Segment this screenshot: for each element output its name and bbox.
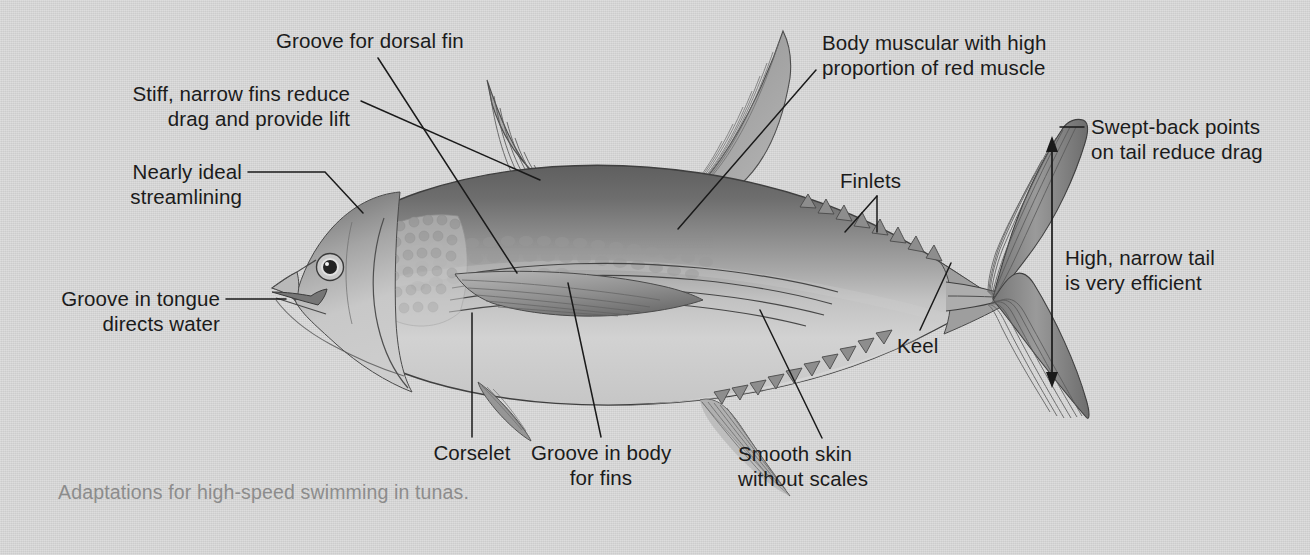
label-smooth-skin-line1: Smooth skin [738, 441, 852, 466]
label-streamlining-line1: Nearly ideal [20, 159, 242, 184]
fish-body [272, 31, 1089, 496]
head [272, 192, 412, 392]
label-finlets: Finlets [840, 168, 901, 193]
label-swept-back-line1: Swept-back points [1091, 114, 1260, 139]
leader-streamlining [248, 172, 363, 213]
label-swept-back-line2: on tail reduce drag [1091, 139, 1263, 164]
label-groove-tongue-line1: Groove in tongue [0, 286, 220, 311]
label-stiff-fins-line1: Stiff, narrow fins reduce [60, 81, 350, 106]
figure-canvas: Groove for dorsal fin Stiff, narrow fins… [0, 0, 1310, 555]
label-corselet: Corselet [402, 440, 542, 465]
label-groove-tongue-line2: directs water [0, 311, 220, 336]
label-body-muscular-line1: Body muscular with high [822, 30, 1047, 55]
leader-stiff-fins [361, 101, 540, 180]
label-stiff-fins-line2: drag and provide lift [60, 106, 350, 131]
label-keel: Keel [897, 333, 938, 358]
label-groove-body-line1: Groove in body [531, 440, 671, 465]
label-smooth-skin-line2: without scales [738, 466, 868, 491]
label-groove-body-line2: for fins [531, 465, 671, 490]
label-high-narrow-tail-line1: High, narrow tail [1065, 245, 1215, 270]
label-streamlining-line2: streamlining [20, 184, 242, 209]
label-body-muscular-line2: proportion of red muscle [822, 55, 1045, 80]
label-groove-for-dorsal-fin: Groove for dorsal fin [276, 28, 464, 53]
figure-caption: Adaptations for high-speed swimming in t… [58, 481, 469, 504]
label-high-narrow-tail-line2: is very efficient [1065, 270, 1202, 295]
eye [317, 254, 344, 281]
